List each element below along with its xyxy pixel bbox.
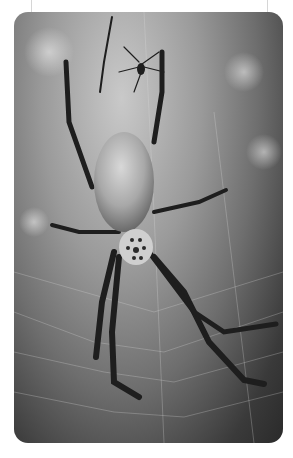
spider-illustration [14, 12, 283, 443]
guide-line-right [267, 0, 268, 12]
spider-photo [14, 12, 283, 443]
guide-line-left [31, 0, 32, 12]
